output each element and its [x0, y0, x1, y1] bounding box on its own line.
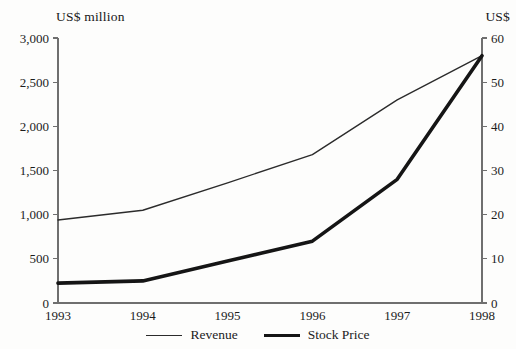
legend-label: Revenue	[190, 327, 237, 343]
chart-legend: RevenueStock Price	[0, 327, 516, 343]
right-tick-label: 40	[491, 120, 504, 133]
legend-entry: Revenue	[146, 327, 237, 343]
right-tick-label: 60	[491, 32, 504, 45]
left-tick-label: 500	[0, 252, 49, 265]
x-tick-label: 1997	[367, 309, 427, 322]
tick-marks	[53, 38, 487, 303]
left-tick-label: 1,500	[0, 164, 49, 177]
left-tick-label: 2,500	[0, 76, 49, 89]
left-tick-label: 0	[0, 297, 49, 310]
legend-line-icon	[146, 335, 182, 336]
right-tick-label: 10	[491, 252, 504, 265]
left-tick-label: 2,000	[0, 120, 49, 133]
axis-lines	[58, 38, 482, 303]
x-tick-label: 1996	[282, 309, 342, 322]
x-tick-label: 1995	[198, 309, 258, 322]
series-line-revenue	[58, 56, 482, 220]
plot-area	[0, 0, 516, 349]
legend-line-icon	[264, 334, 300, 337]
data-series	[58, 56, 482, 283]
legend-entry: Stock Price	[264, 327, 370, 343]
x-tick-label: 1998	[452, 309, 512, 322]
x-tick-label: 1993	[28, 309, 88, 322]
right-tick-label: 20	[491, 208, 504, 221]
x-tick-label: 1994	[113, 309, 173, 322]
left-tick-label: 3,000	[0, 32, 49, 45]
legend-label: Stock Price	[308, 327, 370, 343]
right-tick-label: 50	[491, 76, 504, 89]
chart-container: US$ million US$ 05001,0001,5002,0002,500…	[0, 0, 516, 349]
left-tick-label: 1,000	[0, 208, 49, 221]
right-tick-label: 30	[491, 164, 504, 177]
